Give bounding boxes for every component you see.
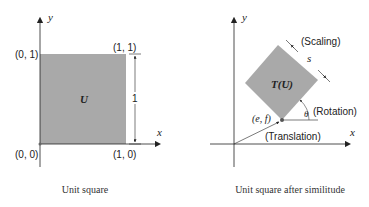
y-axis-label: y xyxy=(241,11,247,23)
label-bottom-right: (1, 0) xyxy=(113,149,136,160)
angle-symbol: θ xyxy=(304,109,309,119)
label-top-left: (0, 1) xyxy=(15,49,38,60)
left-caption: Unit square xyxy=(62,184,109,195)
scale-symbol: s xyxy=(307,52,311,64)
left-panel: y x U (0, 1) (1, 1) (0, 0) (1, 0) 1 Unit… xyxy=(15,11,162,195)
scale-line-up xyxy=(291,45,298,52)
point-label: (e, f) xyxy=(252,113,272,125)
scale-line-down xyxy=(318,70,326,78)
dimension-label: 1 xyxy=(132,93,138,104)
x-axis-label: x xyxy=(349,126,355,138)
translation-label: (Translation) xyxy=(265,131,321,142)
shape-label: T(U) xyxy=(271,78,293,91)
label-bottom-left: (0, 0) xyxy=(15,149,38,160)
label-top-right: (1, 1) xyxy=(113,42,136,53)
right-caption: Unit square after similitude xyxy=(235,184,345,195)
translation-point xyxy=(280,118,284,122)
origin-dot xyxy=(39,143,42,146)
similitude-diagram: y x U (0, 1) (1, 1) (0, 0) (1, 0) 1 Unit… xyxy=(0,0,369,207)
y-axis-label: y xyxy=(47,11,53,23)
scaling-label: (Scaling) xyxy=(301,36,340,47)
right-panel: y x T(U) (Scaling) s θ (Rotation) (e, f)… xyxy=(210,11,357,195)
rotation-label: (Rotation) xyxy=(313,106,357,117)
x-axis-label: x xyxy=(156,126,162,138)
shape-label: U xyxy=(80,93,89,105)
